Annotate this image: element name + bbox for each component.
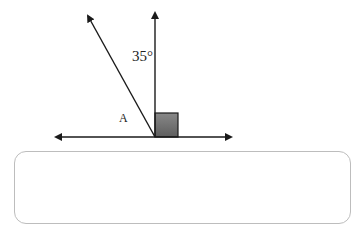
right-angle-marker — [155, 113, 178, 137]
angle-diagram: 35° A — [0, 0, 357, 150]
angle-label: 35° — [132, 48, 153, 65]
angle-a-label: A — [119, 111, 128, 126]
diagram-svg — [0, 0, 357, 150]
answer-input-box[interactable] — [14, 151, 351, 224]
